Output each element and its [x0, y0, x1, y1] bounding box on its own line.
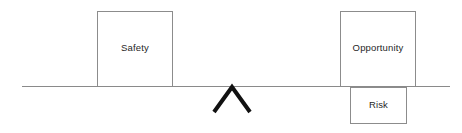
fulcrum-chevron-icon — [214, 87, 250, 112]
safety-box-label: Safety — [97, 43, 173, 53]
balance-diagram-canvas: Safety Opportunity Risk — [0, 0, 462, 133]
opportunity-box-label: Opportunity — [338, 43, 418, 53]
diagram-vector-layer — [0, 0, 462, 133]
risk-box-label: Risk — [350, 100, 407, 110]
